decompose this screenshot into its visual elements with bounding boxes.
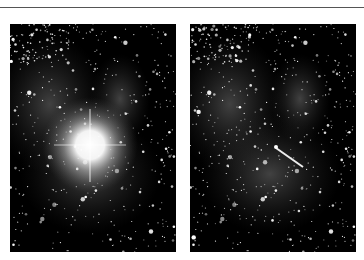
right-image-panel: [190, 24, 356, 252]
left-image-panel: [10, 24, 176, 252]
right-star-field: [190, 24, 356, 252]
top-rule: [0, 7, 364, 8]
left-star-field: [10, 24, 176, 252]
